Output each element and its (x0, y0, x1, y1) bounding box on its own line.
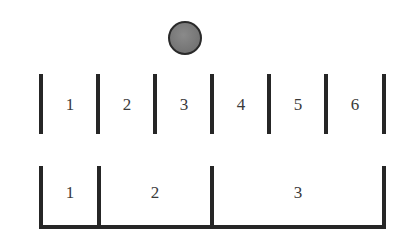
bottom-divider-2 (210, 166, 214, 226)
top-divider-6 (382, 74, 386, 134)
top-divider-5 (324, 74, 328, 134)
top-divider-2 (153, 74, 157, 134)
bottom-divider-3 (382, 166, 386, 229)
slot-diagram: 1 2 3 4 5 6 1 2 3 (0, 0, 404, 235)
top-slot-label: 4 (237, 95, 246, 115)
ball (168, 21, 202, 55)
top-slot-label: 6 (351, 95, 360, 115)
top-slot-label: 2 (123, 95, 132, 115)
bottom-slot-label: 3 (294, 183, 303, 203)
bottom-slot-label: 2 (151, 183, 160, 203)
bottom-divider-1 (97, 166, 101, 226)
bottom-base-line (39, 225, 386, 229)
top-divider-4 (267, 74, 271, 134)
bottom-slot-label: 1 (66, 183, 75, 203)
bottom-divider-0 (39, 166, 43, 229)
top-slot-label: 3 (180, 95, 189, 115)
top-divider-0 (39, 74, 43, 134)
top-slot-label: 5 (294, 95, 303, 115)
top-divider-1 (96, 74, 100, 134)
top-divider-3 (210, 74, 214, 134)
top-slot-label: 1 (66, 95, 75, 115)
